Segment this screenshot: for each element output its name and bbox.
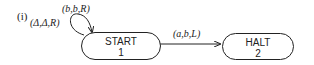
state-halt: HALT 2 bbox=[222, 33, 294, 60]
state-halt-name: HALT bbox=[223, 37, 293, 48]
state-start: START 1 bbox=[81, 32, 161, 60]
state-start-name: START bbox=[82, 36, 160, 47]
state-halt-number: 2 bbox=[223, 48, 293, 59]
self-loop-edge bbox=[70, 14, 92, 35]
state-start-number: 1 bbox=[82, 47, 160, 58]
